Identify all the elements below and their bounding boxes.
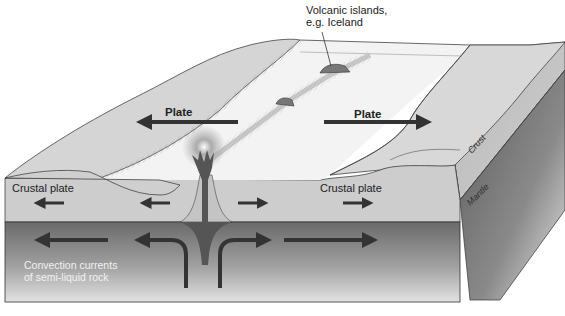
callout-volcanic-islands-line1: Volcanic islands, — [306, 4, 387, 16]
crustal-plate-label-right: Crustal plate — [320, 182, 382, 194]
convection-label-line1: Convection currents — [24, 259, 117, 271]
plate-label-right: Plate — [354, 108, 382, 120]
crustal-plate-label-left: Crustal plate — [12, 182, 74, 194]
convection-label-line2: of semi-liquid rock — [24, 271, 109, 283]
plate-label-left: Plate — [165, 106, 193, 118]
callout-volcanic-islands-line2: e.g. Iceland — [306, 16, 363, 28]
